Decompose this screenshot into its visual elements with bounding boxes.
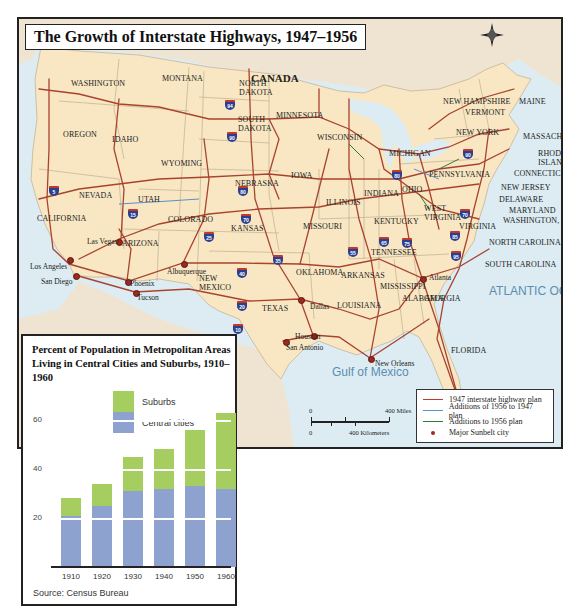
city-label: Albuquerque xyxy=(167,267,206,276)
legend-item-1956-additions: Additions of 1956 to 1947 plan xyxy=(423,405,547,416)
interstate-shield-icon: 90 xyxy=(227,132,237,142)
state-label: OKLAHOMA xyxy=(296,268,343,277)
x-axis xyxy=(51,566,231,568)
state-label: NORTH DAKOTA xyxy=(239,79,285,97)
chart-legend-suburbs: Suburbs xyxy=(113,391,176,412)
atlantic-ocean-label: ATLANTIC OCEAN xyxy=(489,285,549,298)
central-cities-segment xyxy=(216,489,236,567)
city-label: Tucson xyxy=(137,293,159,302)
gridline-60 xyxy=(51,420,231,422)
state-label: VIRGINIA xyxy=(459,222,496,231)
city-label: Atlanta xyxy=(429,273,451,282)
state-label: WISCONSIN xyxy=(317,133,362,142)
gridline-40 xyxy=(51,469,231,471)
x-tick-label: 1910 xyxy=(56,572,86,581)
interstate-shield-icon: 5 xyxy=(49,186,59,196)
legend-central-label: Central cities xyxy=(142,418,194,428)
state-label: MARYLAND xyxy=(509,206,556,215)
state-label: FLORIDA xyxy=(451,346,486,355)
legend-label: Major Sunbelt city xyxy=(449,428,509,437)
bar-1930 xyxy=(123,457,143,567)
state-label: SOUTH CAROLINA xyxy=(485,260,556,269)
state-label: CONNECTICUT xyxy=(514,169,563,178)
legend-suburbs-label: Suburbs xyxy=(142,397,176,407)
chart-source: Source: Census Bureau xyxy=(33,588,129,598)
blue-line-icon xyxy=(423,410,443,412)
interstate-shield-icon: 65 xyxy=(379,237,389,247)
interstate-shield-icon: 80 xyxy=(392,170,402,180)
interstate-shield-icon: 35 xyxy=(273,255,283,265)
scale-km-zero: 0 xyxy=(309,429,312,436)
state-label: VERMONT xyxy=(465,108,505,117)
interstate-shield-icon: 25 xyxy=(204,232,214,242)
state-label: NORTH CAROLINA xyxy=(489,238,561,247)
map-title: The Growth of Interstate Highways, 1947–… xyxy=(25,24,366,50)
state-label: UTAH xyxy=(138,195,160,204)
scale-km-label: 400 Kilometers xyxy=(349,429,389,436)
x-tick-label: 1920 xyxy=(87,572,117,581)
scale-miles-label: 400 Miles xyxy=(385,407,411,414)
sunbelt-city-dot-icon xyxy=(73,273,80,280)
state-label: MISSISSIPPI xyxy=(380,282,426,291)
gridline-20 xyxy=(51,518,231,520)
central-cities-swatch-icon xyxy=(113,412,134,433)
bar-1920 xyxy=(92,484,112,567)
central-cities-segment xyxy=(123,491,143,567)
city-label: Houston xyxy=(295,332,320,341)
state-label: RHODE ISLAND xyxy=(538,149,563,167)
state-label: PENNSYLVANIA xyxy=(429,170,490,179)
state-label: WASHINGTON, D.C. xyxy=(503,216,563,225)
compass-rose-icon xyxy=(478,21,506,49)
state-label: TEXAS xyxy=(262,304,288,313)
sunbelt-city-dot-icon xyxy=(67,257,74,264)
map-legend: 1947 interstate highway plan Additions o… xyxy=(416,389,554,443)
bar-1950 xyxy=(185,430,205,567)
suburbs-segment xyxy=(185,430,205,486)
interstate-shield-icon: 70 xyxy=(241,214,251,224)
state-label: NEVADA xyxy=(79,191,112,200)
scale-miles-zero: 0 xyxy=(309,407,312,414)
state-label: NEW JERSEY xyxy=(501,183,551,192)
sunbelt-city-dot-icon xyxy=(368,356,375,363)
central-cities-segment xyxy=(61,516,81,567)
state-label: KANSAS xyxy=(231,224,264,233)
state-label: LOUISIANA xyxy=(337,301,381,310)
bar-1960 xyxy=(216,413,236,567)
state-label: WYOMING xyxy=(161,159,202,168)
state-label: MASSACHUSETTS xyxy=(523,132,563,141)
state-label: WASHINGTON xyxy=(71,79,125,88)
state-label: GEORGIA xyxy=(424,294,461,303)
map-scale-bar: 0 400 Miles 0 400 Kilometers xyxy=(309,407,419,447)
x-tick-label: 1960 xyxy=(211,572,241,581)
state-label: MINNESOTA xyxy=(276,111,323,120)
legend-label: Additions to 1956 plan xyxy=(449,417,523,426)
central-cities-segment xyxy=(92,506,112,567)
state-label: KENTUCKY xyxy=(374,217,419,226)
state-label: TENNESSEE xyxy=(371,248,417,257)
interstate-shield-icon: 80 xyxy=(238,186,248,196)
x-tick-label: 1940 xyxy=(149,572,179,581)
interstate-shield-icon: 70 xyxy=(460,209,470,219)
state-label: OHIO xyxy=(402,185,422,194)
interstate-shield-icon: 85 xyxy=(450,231,460,241)
y-tick-40: 40 xyxy=(33,464,42,473)
sunbelt-city-dot-icon xyxy=(420,276,427,283)
state-label: NEW YORK xyxy=(456,128,502,137)
state-label: NEW HAMPSHIRE xyxy=(443,97,511,106)
city-label: Phoenix xyxy=(130,279,155,288)
interstate-shield-icon: 10 xyxy=(233,324,243,334)
interstate-shield-icon: 95 xyxy=(451,251,461,261)
state-label: OREGON xyxy=(63,130,97,139)
bar-1940 xyxy=(154,449,174,567)
state-label: DELAWARE xyxy=(499,195,543,204)
state-label: COLORADO xyxy=(168,215,213,224)
interstate-shield-icon: 20 xyxy=(237,301,247,311)
city-label: San Diego xyxy=(41,277,72,286)
interstate-shield-icon: 94 xyxy=(225,100,235,110)
state-label: IOWA xyxy=(291,171,312,180)
chart-legend-central: Central cities xyxy=(113,412,194,433)
red-line-icon xyxy=(423,399,443,401)
city-dot-icon xyxy=(431,431,435,435)
bar-1910 xyxy=(61,498,81,567)
gulf-of-mexico-label: Gulf of Mexico xyxy=(332,366,409,379)
